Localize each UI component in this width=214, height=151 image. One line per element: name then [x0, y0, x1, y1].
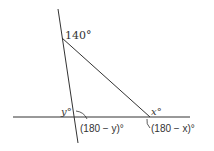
right-interior-label: x°	[151, 106, 162, 117]
hypotenuse-line	[62, 38, 150, 117]
left-exterior-arc	[76, 111, 87, 119]
left-exterior-label: (180 − y)°	[80, 123, 124, 134]
top-angle-label: 140°	[65, 29, 92, 42]
left-interior-label: y°	[60, 106, 72, 117]
right-exterior-arc	[147, 119, 150, 128]
right-exterior-label: (180 − x)°	[151, 123, 195, 134]
triangle-diagram: 140° y° x° (180 − y)° (180 − x)°	[0, 0, 214, 151]
